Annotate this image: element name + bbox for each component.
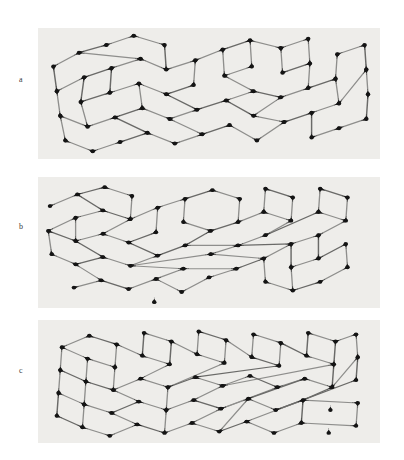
panel-c: [38, 320, 380, 443]
panel-a: [38, 28, 380, 159]
panel-label-a: a: [19, 76, 23, 84]
network-diagram-a: [38, 28, 380, 159]
panel-label-c: c: [19, 367, 23, 375]
network-diagram-c: [38, 320, 380, 443]
network-diagram-b: [38, 177, 380, 308]
panel-b: [38, 177, 380, 308]
panel-label-b: b: [19, 223, 23, 231]
figure-container: a b c: [0, 0, 404, 460]
